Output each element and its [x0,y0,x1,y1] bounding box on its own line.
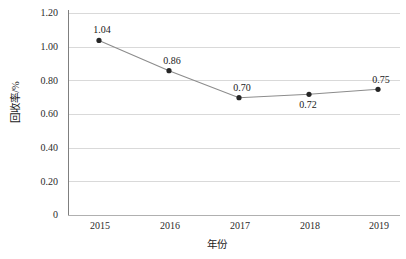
y-tick-label-5: 0.20 [0,177,58,187]
y-tick-label-0: 1.20 [0,8,58,18]
y-tick-label-3: 0.60 [0,109,58,119]
chart-plot-area [0,0,406,259]
y-tick-label-1: 1.00 [0,42,58,52]
x-tick-label-2015: 2015 [70,220,130,231]
x-tick-label-2017: 2017 [210,220,270,231]
x-axis-title: 年份 [0,236,406,251]
data-label-2019: 0.75 [359,75,403,85]
y-axis-title: 回收率/% [10,66,22,138]
data-point-2017 [236,95,241,100]
y-tick-label-2: 0.80 [0,76,58,86]
data-point-2019 [375,87,380,92]
y-tick-label-6: 0 [0,210,58,220]
gridlines [68,14,400,216]
y-tick-label-4: 0.40 [0,143,58,153]
data-label-2016: 0.86 [150,56,194,66]
x-tick-label-2018: 2018 [280,220,340,231]
x-tick-label-2019: 2019 [349,220,406,231]
line-chart: 1.20 1.00 0.80 0.60 0.40 0.20 0 2015 201… [0,0,406,259]
data-point-2016 [166,68,171,73]
data-point-2015 [96,38,101,43]
data-label-2015: 1.04 [80,25,124,35]
data-label-2018: 0.72 [286,100,330,110]
data-point-2018 [306,92,311,97]
x-tick-label-2016: 2016 [140,220,200,231]
data-label-2017: 0.70 [220,83,264,93]
